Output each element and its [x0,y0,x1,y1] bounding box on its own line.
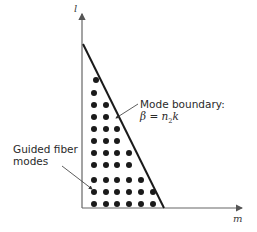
mode-dot [114,150,120,156]
mode-dot [91,177,97,183]
mode-dot [114,177,120,183]
mode-dot [138,201,144,207]
mode-dot [91,90,97,96]
mode-dot [114,138,120,144]
mode-dot [103,189,109,195]
mode-boundary-label: Mode boundary: β = n2k [140,98,225,127]
mode-dot [126,162,132,168]
guided-modes-label-arrow [62,166,92,189]
mode-dot [103,126,109,132]
mode-dot [91,162,97,168]
mode-dot [91,138,97,144]
mode-dot [91,201,97,207]
mode-dot [126,201,132,207]
mode-dot [91,126,97,132]
boundary-label-arrow [116,104,138,118]
mode-dot [126,150,132,156]
mode-dot [103,138,109,144]
mode-dot [150,189,156,195]
y-axis-label: l [74,3,77,14]
mode-dot [103,201,109,207]
mode-dot [93,77,99,83]
mode-dot [138,189,144,195]
mode-dot [138,177,144,183]
mode-boundary-label-text: Mode boundary: [140,98,225,110]
mode-dot [91,189,97,195]
mode-dot [114,201,120,207]
mode-dot [103,150,109,156]
mode-dot [126,177,132,183]
guided-modes-label: Guided fiber modes [13,143,78,167]
mode-dot [114,189,120,195]
formula-k: k [172,110,178,122]
mode-dot [103,177,109,183]
formula-equals: = [146,110,161,122]
mode-dot [91,114,97,120]
guided-mode-dots [91,77,156,207]
mode-dot [91,102,97,108]
mode-dot [103,102,109,108]
mode-dot [91,150,97,156]
guided-modes-label-line2: modes [13,155,78,167]
mode-dot [114,162,120,168]
mode-dot [103,162,109,168]
mode-dot [126,189,132,195]
x-axis-label: m [233,213,242,224]
mode-dot [114,126,120,132]
mode-dot [103,114,109,120]
mode-dot [150,201,156,207]
guided-modes-label-line1: Guided fiber [13,143,78,155]
mode-boundary-formula: β = n2k [140,110,225,127]
